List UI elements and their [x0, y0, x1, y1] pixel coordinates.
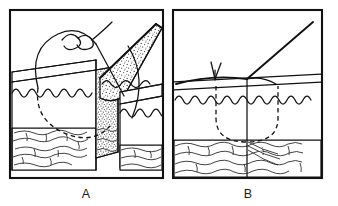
illustration-canvas: A [0, 0, 338, 206]
figure-root: A [0, 0, 338, 206]
panel-a [10, 10, 168, 178]
panel-b-label: B [244, 187, 252, 201]
panel-b [173, 10, 322, 178]
subcutaneous-fat-lobules [12, 128, 96, 170]
panel-a-label: A [82, 187, 91, 201]
